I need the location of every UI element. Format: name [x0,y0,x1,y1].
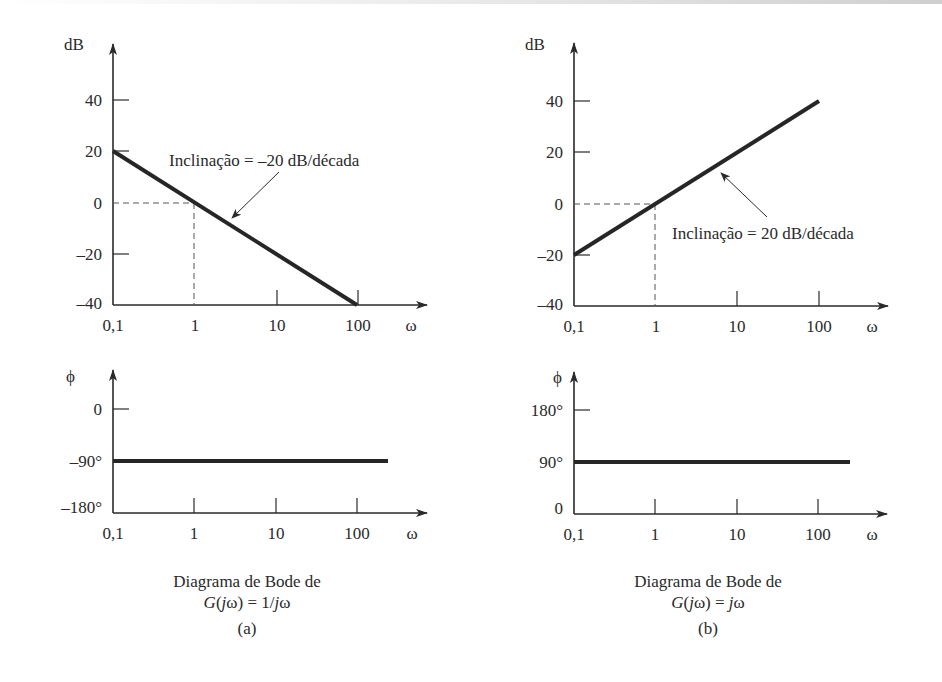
x-tick-0.1: 0,1 [563,317,584,336]
x-tick-100: 100 [806,317,832,336]
y-tick-0: 0 [94,194,103,213]
x-tick-1: 1 [191,316,200,335]
x-tick-0.1: 0,1 [563,525,584,544]
magnitude-curve [113,151,357,305]
caption-b: Diagrama de Bode de G(jω) = jω (b) [558,571,858,639]
caption-title: Diagrama de Bode de [558,571,858,592]
y-tick-m40: –40 [76,294,103,313]
panel-b-magnitude: dB 40 20 0 –20 –40 0,1 1 10 100 ω Inclin… [525,35,888,336]
caption-title: Diagrama de Bode de [97,571,397,592]
x-tick-100: 100 [805,525,831,544]
y-axis-label: dB [64,35,84,54]
y-axis-label: dB [525,35,545,54]
y-tick-m90: –90° [69,452,102,471]
y-tick-0: 0 [555,195,564,214]
caption-label: (a) [97,618,397,639]
y-tick-m20: –20 [537,246,564,265]
slope-annotation: Inclinação = –20 dB/década [169,151,360,170]
slope-arrow [232,172,279,218]
panel-a-phase: ϕ 0 –90° –180° 0,1 1 10 100 ω [60,367,427,543]
y-tick-180: 180° [531,401,563,420]
y-tick-40: 40 [85,91,102,110]
panel-b-phase: ϕ 180° 90° 0 0,1 1 10 100 ω [531,368,887,544]
caption-formula: G(jω) = jω [558,592,858,613]
x-tick-10: 10 [269,316,286,335]
x-tick-0.1: 0,1 [102,524,123,543]
x-tick-10: 10 [729,317,746,336]
slope-arrow [721,173,767,217]
x-axis-label: ω [866,317,877,336]
y-axis-label: ϕ [553,368,562,387]
x-axis-label: ω [405,316,416,335]
x-tick-1: 1 [190,524,199,543]
y-tick-m20: –20 [76,245,103,264]
slope-annotation: Inclinação = 20 dB/década [672,224,854,243]
panel-a-magnitude: dB 40 20 0 –20 –40 0,1 1 10 100 ω Inclin… [64,35,427,335]
x-axis-label: ω [866,525,877,544]
y-tick-20: 20 [85,142,102,161]
x-tick-10: 10 [268,524,285,543]
y-tick-20: 20 [546,143,563,162]
caption-a: Diagrama de Bode de G(jω) = 1/jω (a) [97,571,397,639]
x-tick-1: 1 [651,525,660,544]
x-tick-0.1: 0,1 [102,316,123,335]
y-tick-m40: –40 [537,295,564,314]
y-tick-40: 40 [546,92,563,111]
y-axis-label: ϕ [66,367,75,386]
x-tick-100: 100 [344,524,370,543]
x-tick-100: 100 [345,316,371,335]
caption-label: (b) [558,618,858,639]
y-tick-90: 90° [539,453,563,472]
y-tick-0: 0 [555,499,564,518]
x-axis-label: ω [406,524,417,543]
y-tick-m180: –180° [60,498,102,517]
x-tick-1: 1 [652,317,661,336]
y-tick-0: 0 [94,400,103,419]
caption-formula: G(jω) = 1/jω [97,592,397,613]
x-tick-10: 10 [729,525,746,544]
